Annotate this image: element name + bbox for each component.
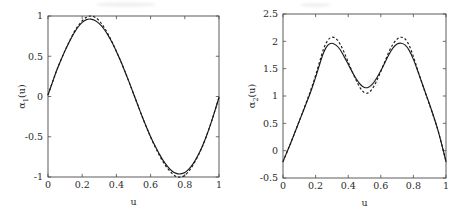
x-tick-label: 1 [216, 179, 222, 190]
svg-text:α2(u): α2(u) [246, 84, 259, 108]
y-tick-label: 0.5 [28, 51, 43, 62]
x-tick-label: 0.4 [341, 180, 356, 191]
y-tick-label: -0.5 [260, 172, 278, 183]
y-tick-label: 0 [272, 145, 278, 156]
scan-artifact [367, 78, 379, 88]
x-tick-label: 0 [280, 180, 286, 191]
x-axis-label: u [130, 196, 136, 207]
axes-box [48, 16, 219, 177]
scan-artifact [96, 2, 156, 7]
y-tick-label: 1.5 [263, 63, 278, 74]
y-tick-label: -0.5 [25, 131, 43, 142]
chart-svg-alpha2: 00.20.40.60.81-0.500.511.522.5uα2(u) [232, 0, 459, 213]
x-tick-label: 0.6 [143, 179, 158, 190]
y-tick-label: 0 [37, 91, 43, 102]
y-axis-label: α1(u) [16, 84, 29, 108]
svg-text:α1(u): α1(u) [16, 84, 29, 108]
chart-panel-alpha2: 00.20.40.60.81-0.500.511.522.5uα2(u) [232, 0, 459, 213]
y-tick-label: 2.5 [263, 8, 278, 19]
y-tick-label: -1 [34, 171, 43, 182]
x-tick-label: 0.2 [75, 179, 90, 190]
chart-svg-alpha1: 00.20.40.60.81-1-0.500.51uα1(u) [0, 0, 232, 213]
x-tick-label: 0.6 [373, 180, 388, 191]
y-tick-label: 0.5 [263, 118, 278, 129]
x-tick-label: 0.8 [406, 180, 421, 191]
curve-dashed [48, 16, 219, 177]
curve-solid [48, 19, 219, 174]
axes-box [283, 14, 446, 178]
y-tick-label: 1 [272, 90, 278, 101]
y-axis-label: α2(u) [246, 84, 259, 108]
y-tick-label: 1 [37, 10, 43, 21]
x-tick-label: 0 [45, 179, 51, 190]
x-tick-label: 0.2 [308, 180, 323, 191]
x-axis-label: u [361, 197, 367, 208]
x-tick-label: 0.8 [177, 179, 192, 190]
chart-panel-alpha1: 00.20.40.60.81-1-0.500.51uα1(u) [0, 0, 232, 213]
curve-solid [283, 43, 446, 161]
figure-container: 00.20.40.60.81-1-0.500.51uα1(u) 00.20.40… [0, 0, 459, 213]
scan-artifact [300, 3, 330, 7]
x-tick-label: 1 [443, 180, 449, 191]
x-tick-label: 0.4 [109, 179, 124, 190]
y-tick-label: 2 [272, 36, 278, 47]
